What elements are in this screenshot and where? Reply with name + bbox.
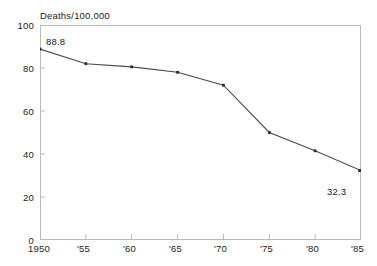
x-tick-label-1975: '75: [260, 243, 273, 254]
x-tick-label-1970: '70: [214, 243, 227, 254]
y-tick-label-20: 20: [0, 192, 34, 203]
x-axis-ticks: [86, 234, 315, 240]
y-tick-label-80: 80: [0, 63, 34, 74]
x-tick-label-1960: '60: [123, 243, 136, 254]
x-tick-label-1955: '55: [77, 243, 90, 254]
x-tick-label-1985: '85: [351, 243, 364, 254]
y-tick-label-40: 40: [0, 149, 34, 160]
line-chart: Deaths/100,000 100 80 60 40 20 0: [0, 0, 377, 266]
x-tick-label-1950: 1950: [28, 243, 50, 254]
data-point-1965: [176, 71, 179, 74]
plot-area: [40, 25, 361, 240]
data-point-1960: [130, 66, 133, 69]
chart-title: [0, 0, 377, 2]
data-point-1975: [268, 131, 271, 134]
data-point-1970: [222, 84, 225, 87]
data-point-1950: [40, 48, 41, 51]
data-series-line: [40, 49, 361, 170]
x-tick-label-1980: '80: [306, 243, 319, 254]
annotation-start-value: 88.8: [46, 36, 65, 47]
y-tick-label-100: 100: [0, 20, 34, 31]
data-point-markers: [40, 48, 361, 172]
y-axis-label: Deaths/100,000: [40, 10, 110, 21]
y-tick-label-60: 60: [0, 106, 34, 117]
annotation-end-value: 32.3: [327, 186, 346, 197]
data-point-1985: [358, 169, 361, 172]
data-point-1955: [85, 62, 88, 65]
data-point-1980: [314, 149, 317, 152]
x-tick-label-1965: '65: [169, 243, 182, 254]
y-axis-ticks: [40, 68, 45, 197]
